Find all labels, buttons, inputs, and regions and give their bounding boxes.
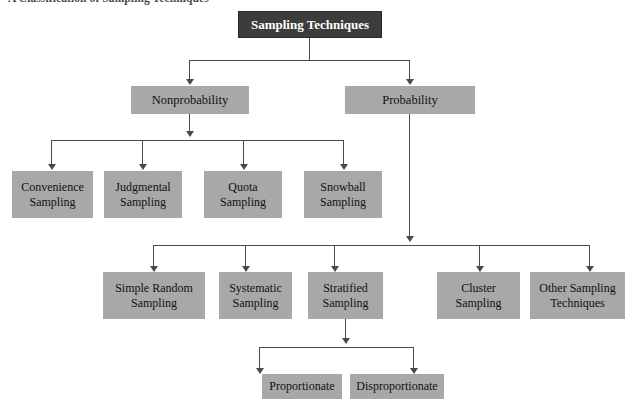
node-label: Disproportionate	[350, 379, 444, 393]
node-label-line2: Sampling	[455, 296, 501, 310]
node-snowball-sampling[interactable]: Snowball Sampling	[304, 171, 382, 218]
arrowhead-quota	[240, 164, 248, 170]
node-label-line1: Other Sampling	[539, 281, 615, 295]
arrowhead-judgmental	[139, 164, 147, 170]
node-label-line2: Sampling	[220, 195, 266, 209]
node-label: Sampling Techniques	[239, 17, 381, 32]
node-stratified-sampling[interactable]: Stratified Sampling	[308, 272, 383, 319]
node-other-sampling-techniques[interactable]: Other Sampling Techniques	[530, 272, 625, 319]
connector-nonprobability-stem	[189, 114, 190, 132]
connector-to-simple-random	[153, 245, 154, 267]
node-judgmental-sampling[interactable]: Judgmental Sampling	[104, 171, 182, 218]
arrowhead-nonprobability-stem	[186, 131, 194, 137]
node-label-line1: Judgmental	[115, 180, 170, 194]
node-label-line2: Sampling	[131, 296, 177, 310]
node-quota-sampling[interactable]: Quota Sampling	[204, 171, 282, 218]
node-nonprobability[interactable]: Nonprobability	[131, 86, 249, 114]
node-label-line2: Sampling	[120, 195, 166, 209]
sampling-techniques-diagram: A Classification of Sampling Techniques …	[0, 0, 634, 403]
node-label-line1: Cluster	[461, 281, 496, 295]
node-label-line2: Sampling	[322, 296, 368, 310]
node-label: Systematic Sampling	[219, 281, 292, 309]
node-disproportionate[interactable]: Disproportionate	[350, 374, 444, 399]
node-proportionate[interactable]: Proportionate	[262, 374, 342, 399]
node-label-line1: Quota	[228, 180, 257, 194]
node-label: Other Sampling Techniques	[530, 281, 625, 309]
node-label: Snowball Sampling	[304, 180, 382, 208]
node-convenience-sampling[interactable]: Convenience Sampling	[12, 171, 93, 218]
node-simple-random-sampling[interactable]: Simple Random Sampling	[103, 272, 205, 319]
connector-stratified-stem	[345, 319, 346, 339]
arrowhead-probability-stem	[406, 236, 414, 242]
node-label-line2: Sampling	[320, 195, 366, 209]
connector-root-split-bar	[189, 60, 410, 61]
connector-to-other-sampling	[589, 245, 590, 267]
node-label-line1: Systematic	[229, 281, 282, 295]
node-label-line1: Snowball	[320, 180, 365, 194]
node-label: Simple Random Sampling	[103, 281, 205, 309]
connector-root-stem	[309, 38, 310, 60]
arrowhead-probability	[406, 79, 414, 85]
node-sampling-techniques[interactable]: Sampling Techniques	[238, 11, 382, 38]
connector-to-snowball	[343, 140, 344, 165]
connector-to-probability	[409, 60, 410, 80]
connector-to-judgmental	[142, 140, 143, 165]
node-systematic-sampling[interactable]: Systematic Sampling	[219, 272, 292, 319]
connector-to-stratified	[334, 245, 335, 267]
node-label: Proportionate	[262, 379, 342, 393]
connector-to-convenience	[51, 140, 52, 165]
connector-to-proportionate	[259, 347, 260, 369]
arrowhead-snowball	[340, 164, 348, 170]
node-cluster-sampling[interactable]: Cluster Sampling	[437, 272, 520, 319]
connector-to-disproportionate	[413, 347, 414, 369]
node-label: Stratified Sampling	[308, 281, 383, 309]
connector-nonprobability-split-bar	[51, 140, 343, 141]
arrowhead-stratified-stem	[342, 338, 350, 344]
node-label: Probability	[345, 93, 475, 108]
node-label-line1: Stratified	[323, 281, 368, 295]
node-label: Cluster Sampling	[437, 281, 520, 309]
connector-probability-split-bar	[153, 245, 589, 246]
arrowhead-nonprobability	[186, 79, 194, 85]
node-label: Nonprobability	[131, 93, 249, 108]
node-label: Judgmental Sampling	[104, 180, 182, 208]
node-label-line2: Sampling	[29, 195, 75, 209]
connector-to-quota	[243, 140, 244, 165]
node-probability[interactable]: Probability	[345, 86, 475, 114]
node-label-line1: Simple Random	[115, 281, 193, 295]
connector-to-systematic	[245, 245, 246, 267]
node-label-line2: Techniques	[550, 296, 604, 310]
connector-probability-stem	[409, 114, 410, 237]
connector-to-nonprobability	[189, 60, 190, 80]
connector-to-cluster	[479, 245, 480, 267]
node-label: Quota Sampling	[204, 180, 282, 208]
node-label: Convenience Sampling	[12, 180, 93, 208]
node-label-line2: Sampling	[232, 296, 278, 310]
node-label-line1: Convenience	[21, 180, 84, 194]
figure-caption: A Classification of Sampling Techniques	[8, 0, 209, 4]
arrowhead-convenience	[48, 164, 56, 170]
connector-stratified-split-bar	[259, 347, 413, 348]
